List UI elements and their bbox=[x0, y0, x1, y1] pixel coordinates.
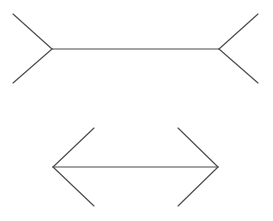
top-right-upper-fin bbox=[219, 14, 258, 49]
top-right-lower-fin bbox=[219, 49, 258, 83]
bottom-right-lower-fin bbox=[178, 167, 218, 206]
muller-lyer-figure bbox=[0, 0, 273, 221]
illusion-canvas bbox=[0, 0, 273, 221]
top-left-upper-fin bbox=[13, 14, 52, 49]
bottom-right-upper-fin bbox=[178, 128, 218, 167]
bottom-left-upper-fin bbox=[53, 128, 94, 167]
top-left-lower-fin bbox=[13, 49, 52, 83]
bottom-figure-group bbox=[53, 128, 218, 206]
bottom-left-lower-fin bbox=[53, 167, 94, 206]
top-figure-group bbox=[13, 14, 258, 83]
